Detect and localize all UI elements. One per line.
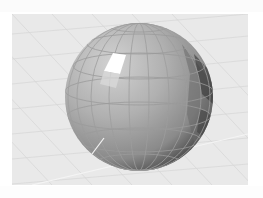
sphere-object[interactable]: [65, 20, 213, 171]
bottom-caption-strip: [0, 186, 263, 198]
3d-viewport[interactable]: [12, 14, 248, 185]
top-caption-strip: [0, 0, 263, 12]
viewport-canvas[interactable]: [12, 14, 248, 185]
